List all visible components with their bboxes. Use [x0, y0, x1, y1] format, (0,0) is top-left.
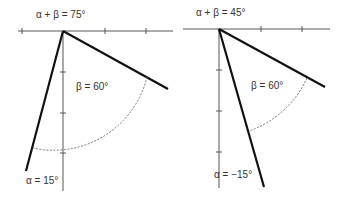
left-sum-label: α + β = 75° — [36, 10, 85, 20]
angle-diagram — [0, 0, 346, 201]
right-sum-label: α + β = 45° — [196, 8, 245, 18]
left-alpha-label: α = 15° — [26, 176, 58, 186]
right-beta-label: β = 60° — [251, 81, 283, 91]
right-alpha-arm — [219, 29, 264, 187]
right-alpha-label: α = −15° — [214, 170, 252, 180]
left-beta-label: β = 60° — [76, 82, 108, 92]
left-panel — [18, 28, 173, 191]
right-panel — [183, 26, 330, 188]
right-beta-arm — [219, 29, 325, 87]
